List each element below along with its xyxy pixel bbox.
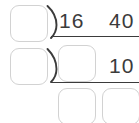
dividend-input-row-2[interactable]: [58, 45, 96, 82]
dividend-digit-10: 10: [109, 55, 134, 76]
division-bracket-icon: [46, 48, 58, 83]
remainder-input-row-3-1[interactable]: [58, 88, 96, 123]
division-bracket-icon: [46, 5, 58, 39]
remainder-input-row-3-2[interactable]: [102, 88, 139, 123]
division-bar-row-2: [51, 82, 139, 83]
dividend-digit-16: 16: [59, 10, 84, 31]
dividend-digit-40: 40: [109, 10, 134, 31]
long-division-worksheet: 16 40 10: [0, 0, 139, 123]
division-bar-row-1: [51, 36, 139, 37]
divisor-input-row-2[interactable]: [10, 48, 48, 85]
divisor-input-row-1[interactable]: [10, 5, 48, 42]
